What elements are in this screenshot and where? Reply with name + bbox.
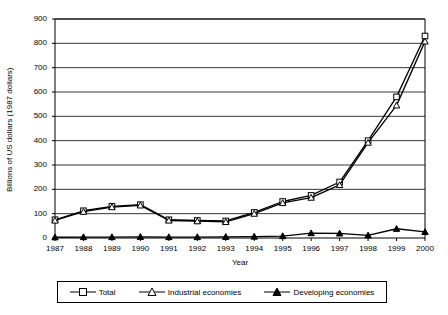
x-axis-title: Year [55,258,425,267]
x-axis-tick-label: 1990 [125,245,155,253]
series-line-0 [55,36,425,221]
y-axis-tick-label: 0 [19,234,47,242]
y-axis-tick-label: 700 [19,64,47,72]
legend-item-total: Total [70,287,116,297]
y-axis-tick-label: 500 [19,112,47,120]
chart-legend: Total Industrial economies Developing ec… [57,281,387,303]
legend-item-industrial-economies: Industrial economies [139,287,241,297]
x-axis-tick-label: 2000 [410,245,440,253]
y-axis-tick-label: 400 [19,137,47,145]
series-line-1 [55,41,425,222]
x-axis-tick-label: 1987 [40,245,70,253]
legend-swatch-open-square-icon [70,287,96,297]
legend-label-developing-economies: Developing economies [293,288,374,297]
line-chart: Billions of US dollars (1987 dollars) Ye… [0,0,448,315]
x-axis-tick-label: 1998 [353,245,383,253]
data-point-marker [394,94,400,100]
x-axis-tick-label: 1992 [182,245,212,253]
x-axis-tick-label: 1995 [268,245,298,253]
x-axis-tick-label: 1997 [325,245,355,253]
x-axis-tick-label: 1996 [296,245,326,253]
x-axis-tick-label: 1989 [97,245,127,253]
data-point-marker [393,102,399,108]
y-axis-tick-label: 200 [19,185,47,193]
plot-area [0,0,448,315]
y-axis-tick-label: 600 [19,88,47,96]
x-axis-tick-label: 1994 [239,245,269,253]
y-axis-tick-label: 900 [19,15,47,23]
legend-label-industrial-economies: Industrial economies [168,288,241,297]
legend-swatch-open-triangle-icon [139,287,165,297]
y-axis-tick-label: 300 [19,161,47,169]
legend-label-total: Total [99,288,116,297]
x-axis-tick-label: 1988 [68,245,98,253]
y-axis-tick-label: 800 [19,39,47,47]
y-axis-tick-label: 100 [19,210,47,218]
legend-item-developing-economies: Developing economies [264,287,374,297]
x-axis-tick-label: 1991 [154,245,184,253]
legend-swatch-filled-triangle-icon [264,287,290,297]
x-axis-tick-label: 1993 [211,245,241,253]
x-axis-tick-label: 1999 [382,245,412,253]
